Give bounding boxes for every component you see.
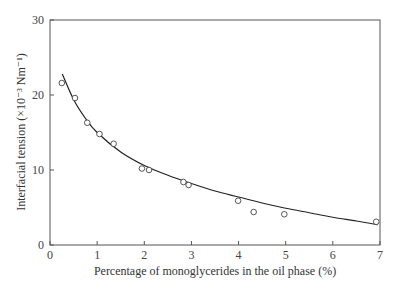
- y-axis-label: Interfacial tension (×10⁻³ Nm⁻¹): [14, 53, 28, 211]
- fitted-curve-line: [62, 74, 377, 225]
- data-point-marker: [235, 198, 241, 204]
- data-points: [59, 80, 379, 224]
- chart: 012345670102030 Percentage of monoglycer…: [0, 0, 397, 295]
- x-tick-label: 6: [330, 248, 336, 262]
- axis-ticks: 012345670102030: [32, 13, 383, 262]
- x-tick-label: 5: [283, 248, 289, 262]
- y-tick-label: 30: [32, 13, 44, 27]
- x-axis-label: Percentage of monoglycerides in the oil …: [94, 264, 336, 278]
- data-point-marker: [139, 166, 145, 172]
- data-point-marker: [373, 219, 379, 225]
- data-point-marker: [111, 141, 117, 147]
- x-tick-label: 2: [141, 248, 147, 262]
- data-point-marker: [97, 131, 103, 137]
- y-tick-label: 0: [38, 238, 44, 252]
- data-point-marker: [251, 209, 257, 215]
- y-tick-label: 10: [32, 163, 44, 177]
- x-tick-label: 4: [236, 248, 242, 262]
- data-point-marker: [72, 95, 78, 101]
- y-tick-label: 20: [32, 88, 44, 102]
- data-point-marker: [186, 182, 192, 188]
- x-tick-label: 0: [47, 248, 53, 262]
- fitted-curve: [62, 74, 377, 225]
- x-tick-label: 1: [94, 248, 100, 262]
- data-point-marker: [146, 167, 152, 173]
- x-tick-label: 3: [188, 248, 194, 262]
- data-point-marker: [181, 179, 187, 185]
- data-point-marker: [59, 80, 65, 86]
- data-point-marker: [84, 120, 90, 126]
- data-point-marker: [282, 211, 288, 217]
- x-tick-label: 7: [377, 248, 383, 262]
